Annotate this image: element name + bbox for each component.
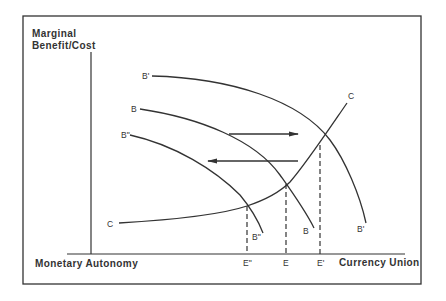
- b-double-prime-label-bottom: B": [252, 232, 261, 242]
- b-label-bottom: B: [303, 226, 309, 236]
- y-axis-title-line1: Marginal: [32, 28, 76, 39]
- b-prime-label-top: B': [142, 71, 150, 81]
- diagram-canvas: Marginal Benefit/Cost Monetary Autonomy …: [0, 0, 446, 301]
- e-prime-label: E': [317, 258, 325, 268]
- e-label: E: [283, 258, 289, 268]
- c-curve: [119, 103, 347, 223]
- e-double-prime-label: E": [243, 258, 252, 268]
- c-label-left: C: [107, 219, 113, 229]
- diagram-frame: [23, 16, 421, 284]
- b-curve: [140, 109, 314, 228]
- x-axis-left-label: Monetary Autonomy: [35, 258, 138, 269]
- b-double-prime-curve: [130, 135, 263, 233]
- y-axis-title-line2: Benefit/Cost: [32, 40, 96, 51]
- x-axis-right-label: Currency Union: [339, 257, 420, 268]
- c-label-right: C: [348, 91, 354, 101]
- b-double-prime-label-top: B": [121, 130, 130, 140]
- b-prime-label-bottom: B': [357, 224, 365, 234]
- b-label-top: B: [131, 104, 137, 114]
